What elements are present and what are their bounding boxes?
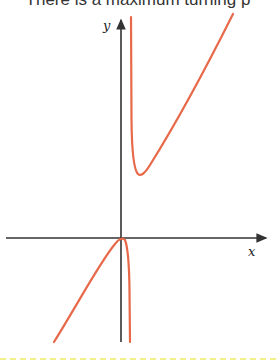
section-divider — [0, 358, 276, 360]
function-graph: y x — [0, 0, 276, 362]
y-axis-label: y — [102, 18, 111, 33]
x-axis-label: x — [248, 244, 256, 259]
curve-left-branch — [54, 239, 130, 342]
curve-right-branch — [131, 14, 233, 175]
